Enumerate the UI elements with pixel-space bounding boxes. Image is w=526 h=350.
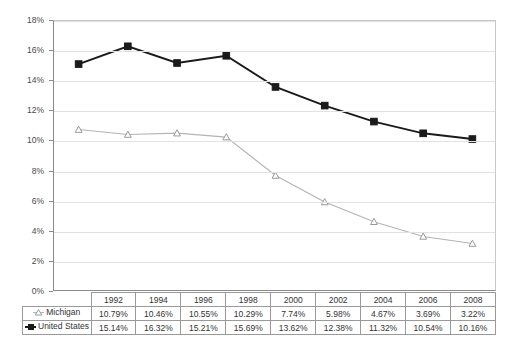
data-point-marker xyxy=(174,60,181,67)
data-point-marker xyxy=(321,102,328,109)
table-cell: 5.98% xyxy=(316,307,361,321)
legend-open-triangle-icon xyxy=(33,308,44,317)
table-column-header: 1998 xyxy=(226,293,271,307)
table-cell: 3.22% xyxy=(451,307,496,321)
table-cell: 10.16% xyxy=(451,321,496,335)
table-row-label: Michigan xyxy=(23,307,92,321)
y-axis-tick-mark xyxy=(49,261,53,262)
table-header-row: 199219941996199820002002200420062008 xyxy=(23,293,496,307)
gridline xyxy=(54,141,495,142)
table-cell: 10.46% xyxy=(136,307,181,321)
table-cell: 10.54% xyxy=(406,321,451,335)
table-cell: 16.32% xyxy=(136,321,181,335)
table-row: Michigan10.79%10.46%10.55%10.29%7.74%5.9… xyxy=(23,307,496,321)
y-axis-tick-mark xyxy=(49,291,53,292)
table-row: United States15.14%16.32%15.21%15.69%13.… xyxy=(23,321,496,335)
gridline xyxy=(54,21,495,22)
data-point-marker xyxy=(223,52,230,59)
legend-filled-square-icon xyxy=(25,322,36,331)
data-point-marker xyxy=(272,84,279,91)
y-axis-tick-mark xyxy=(49,171,53,172)
legend-label: United States xyxy=(38,322,89,331)
table-column-header: 2002 xyxy=(316,293,361,307)
series-line-united-states xyxy=(79,46,473,139)
gridline xyxy=(54,202,495,203)
y-axis-tick-mark xyxy=(49,201,53,202)
data-table: 199219941996199820002002200420062008 Mic… xyxy=(22,292,496,335)
gridline xyxy=(54,172,495,173)
table-column-header: 1996 xyxy=(181,293,226,307)
table-cell: 15.21% xyxy=(181,321,226,335)
data-point-marker xyxy=(420,130,427,137)
table-cell: 10.29% xyxy=(226,307,271,321)
legend-label: Michigan xyxy=(46,308,80,317)
table-cell: 12.38% xyxy=(316,321,361,335)
y-axis: 0%2%4%6%8%10%12%14%16%18% xyxy=(0,20,48,291)
y-axis-tick-label: 6% xyxy=(0,196,44,206)
y-axis-tick-label: 4% xyxy=(0,226,44,236)
gridline xyxy=(54,51,495,52)
y-axis-tick-label: 18% xyxy=(0,15,44,25)
plot-area xyxy=(53,20,496,291)
table-column-header: 2008 xyxy=(451,293,496,307)
gridline xyxy=(54,111,495,112)
table-cell: 3.69% xyxy=(406,307,451,321)
y-axis-tick-mark xyxy=(49,231,53,232)
y-axis-tick-mark xyxy=(49,110,53,111)
y-axis-tick-label: 12% xyxy=(0,105,44,115)
y-axis-tick-mark xyxy=(49,140,53,141)
table-cell: 4.67% xyxy=(361,307,406,321)
gridline xyxy=(54,81,495,82)
table-cell: 11.32% xyxy=(361,321,406,335)
data-point-marker xyxy=(75,61,82,68)
table-cell: 7.74% xyxy=(271,307,316,321)
table-cell: 15.14% xyxy=(91,321,136,335)
data-point-marker xyxy=(371,218,378,224)
y-axis-tick-label: 14% xyxy=(0,75,44,85)
table-cell: 10.79% xyxy=(91,307,136,321)
table-cell: 10.55% xyxy=(181,307,226,321)
y-axis-tick-label: 2% xyxy=(0,256,44,266)
table-column-header: 1994 xyxy=(136,293,181,307)
table-column-header: 2000 xyxy=(271,293,316,307)
y-axis-tick-mark xyxy=(49,50,53,51)
table-column-header: 1992 xyxy=(91,293,136,307)
y-axis-tick-mark xyxy=(49,80,53,81)
gridline xyxy=(54,232,495,233)
series-line-michigan xyxy=(79,130,473,244)
table-cell: 15.69% xyxy=(226,321,271,335)
chart-container: 0%2%4%6%8%10%12%14%16%18% 19921994199619… xyxy=(0,0,526,350)
y-axis-tick-label: 16% xyxy=(0,45,44,55)
gridline xyxy=(54,262,495,263)
y-axis-tick-label: 8% xyxy=(0,166,44,176)
data-point-marker xyxy=(371,118,378,125)
y-axis-tick-label: 10% xyxy=(0,135,44,145)
table-row-label: United States xyxy=(23,321,92,335)
data-point-marker xyxy=(125,43,132,50)
table-corner-cell xyxy=(23,293,92,307)
table-cell: 13.62% xyxy=(271,321,316,335)
series-layer xyxy=(54,21,497,292)
table-column-header: 2004 xyxy=(361,293,406,307)
table-column-header: 2006 xyxy=(406,293,451,307)
y-axis-tick-mark xyxy=(49,20,53,21)
